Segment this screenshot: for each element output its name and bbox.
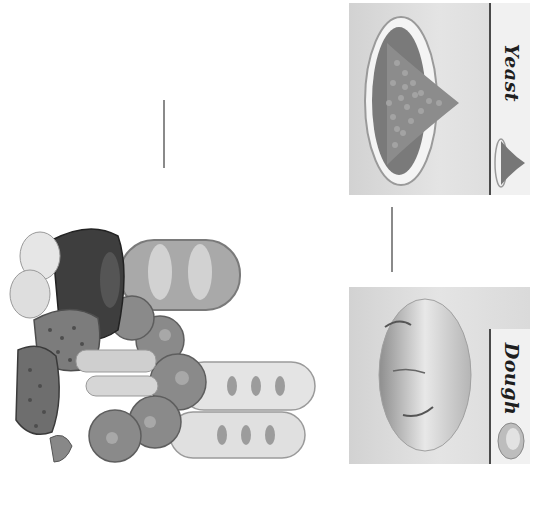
yeast-bowl-icon <box>349 3 489 195</box>
small-yeast-icon <box>493 135 529 191</box>
dough-ball-icon <box>349 287 489 464</box>
connector-yeast-dough <box>391 207 393 272</box>
bread-products-illustration <box>0 200 330 470</box>
yeast-panel: Yeast <box>349 3 530 195</box>
yeast-label-strip: Yeast <box>489 3 530 195</box>
yeast-label: Yeast <box>501 44 523 102</box>
small-dough-icon <box>495 421 527 461</box>
connector-dough-breads <box>163 100 165 168</box>
dough-label: Dough <box>501 343 523 416</box>
dough-panel: Dough <box>349 287 530 464</box>
dough-label-strip: Dough <box>489 329 530 464</box>
